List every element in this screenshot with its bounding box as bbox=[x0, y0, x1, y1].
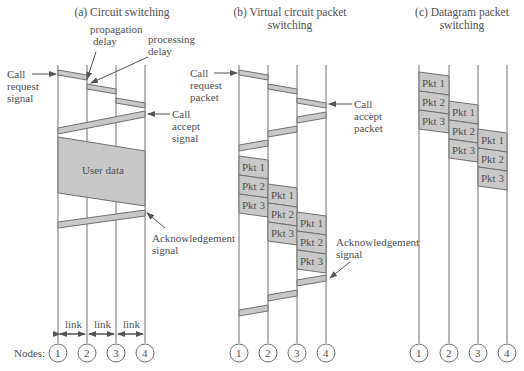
call-accept-band-3 bbox=[239, 140, 268, 151]
node-number-c1: 1 bbox=[416, 347, 422, 359]
call-request-band-1 bbox=[58, 70, 87, 80]
processing-label-2: delay bbox=[148, 45, 172, 57]
call-request-band-3 bbox=[297, 98, 326, 108]
call-accept-band bbox=[58, 111, 145, 134]
panel-c-title-2: switching bbox=[400, 19, 524, 32]
ack-band-1 bbox=[297, 275, 326, 286]
panel-b-title-2: switching bbox=[220, 19, 360, 32]
ack-band-3 bbox=[239, 305, 268, 316]
b-pkt2-hop3: Pkt 2 bbox=[300, 236, 323, 248]
user-data-label: User data bbox=[82, 164, 124, 176]
node-number-a1: 1 bbox=[55, 347, 61, 359]
b-pkt1-hop1: Pkt 1 bbox=[242, 161, 265, 173]
node-number-a4: 4 bbox=[142, 347, 148, 359]
b-pkt3-hop3: Pkt 3 bbox=[300, 255, 323, 267]
call-request-band-3 bbox=[116, 98, 145, 108]
link-label-2: link bbox=[94, 318, 111, 330]
panel-b-title-1: (b) Virtual circuit packet bbox=[220, 6, 360, 19]
propagation-label-2: delay bbox=[93, 35, 117, 47]
c-pkt2-hop1: Pkt 2 bbox=[422, 96, 445, 108]
link-label-3: link bbox=[123, 318, 140, 330]
node-number-c2: 2 bbox=[446, 347, 452, 359]
b-pkt2-hop1: Pkt 2 bbox=[242, 180, 265, 192]
b-pkt1-hop3: Pkt 1 bbox=[300, 217, 323, 229]
b-acknowledgement-label-2: signal bbox=[336, 248, 362, 260]
call-request-label-1: Call bbox=[7, 68, 25, 80]
call-accept-band-2 bbox=[268, 126, 297, 137]
panel-a-title: (a) Circuit switching bbox=[62, 6, 182, 19]
c-pkt3-hop1: Pkt 3 bbox=[422, 115, 445, 127]
panel-a-circuit-switching bbox=[32, 52, 170, 362]
panel-c-title-1: (c) Datagram packet bbox=[400, 6, 524, 19]
b-pkt2-hop2: Pkt 2 bbox=[271, 208, 294, 220]
call-request-label-3: signal bbox=[7, 92, 33, 104]
b-acknowledgement-label-1: Acknowledgement bbox=[336, 236, 419, 248]
ack-band-2 bbox=[268, 290, 297, 301]
b-pkt1-hop2: Pkt 1 bbox=[271, 189, 294, 201]
node-number-a2: 2 bbox=[84, 347, 90, 359]
propagation-label-1: propagation bbox=[90, 23, 143, 35]
acknowledgement-band bbox=[58, 210, 145, 228]
node-number-b1: 1 bbox=[236, 347, 242, 359]
acknowledgement-label-2: signal bbox=[152, 244, 178, 256]
node-number-a3: 3 bbox=[113, 347, 119, 359]
c-pkt3-hop2: Pkt 3 bbox=[452, 144, 475, 156]
c-pkt1-hop2: Pkt 1 bbox=[452, 106, 475, 118]
call-accept-band-1 bbox=[297, 112, 326, 123]
node-number-b4: 4 bbox=[323, 347, 329, 359]
call-request-packet-label-3: packet bbox=[190, 91, 219, 103]
acknowledgement-pointer bbox=[147, 213, 165, 228]
c-pkt1-hop3: Pkt 1 bbox=[481, 134, 504, 146]
processing-delay-pointer bbox=[91, 57, 148, 83]
acknowledgement-pointer bbox=[330, 262, 350, 278]
call-accept-label-3: signal bbox=[172, 132, 198, 144]
call-request-label-2: request bbox=[7, 80, 39, 92]
call-accept-label-1: Call bbox=[172, 108, 190, 120]
call-accept-packet-label-3: packet bbox=[354, 122, 383, 134]
call-accept-packet-label-2: accept bbox=[354, 110, 382, 122]
call-request-band-2 bbox=[87, 84, 116, 94]
b-pkt3-hop1: Pkt 3 bbox=[242, 199, 265, 211]
link-label-1: link bbox=[65, 318, 82, 330]
node-number-c3: 3 bbox=[475, 347, 481, 359]
c-pkt2-hop3: Pkt 2 bbox=[481, 153, 504, 165]
call-request-band-2 bbox=[268, 84, 297, 94]
c-pkt3-hop3: Pkt 3 bbox=[481, 172, 504, 184]
node-number-c4: 4 bbox=[504, 347, 510, 359]
c-pkt1-hop1: Pkt 1 bbox=[422, 77, 445, 89]
propagation-delay-pointer bbox=[87, 52, 96, 79]
node-number-b2: 2 bbox=[265, 347, 271, 359]
call-accept-packet-label-1: Call bbox=[354, 98, 372, 110]
call-accept-label-2: accept bbox=[172, 120, 200, 132]
call-request-packet-label-2: request bbox=[190, 79, 222, 91]
b-pkt3-hop2: Pkt 3 bbox=[271, 227, 294, 239]
call-request-band-1 bbox=[239, 70, 268, 80]
c-pkt2-hop2: Pkt 2 bbox=[452, 125, 475, 137]
node-number-b3: 3 bbox=[294, 347, 300, 359]
acknowledgement-label-1: Acknowledgement bbox=[152, 232, 235, 244]
processing-label-1: processing bbox=[148, 33, 195, 45]
call-request-packet-label-1: Call bbox=[190, 67, 208, 79]
nodes-label: Nodes: bbox=[14, 347, 45, 359]
